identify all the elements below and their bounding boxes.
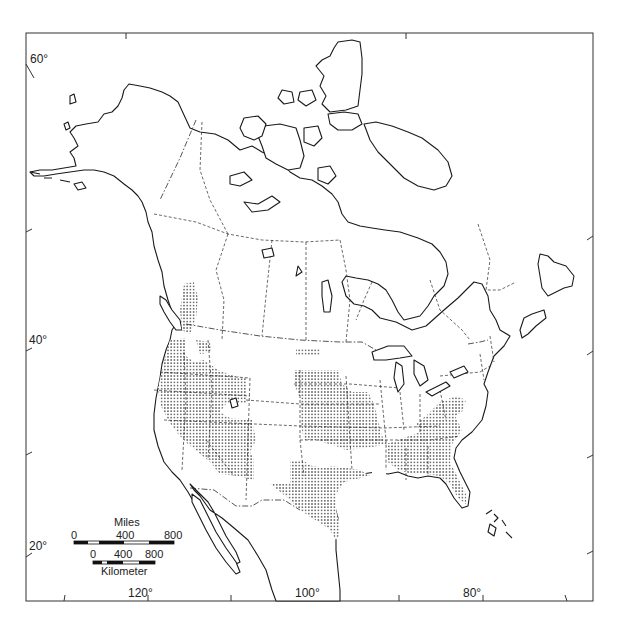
landmass <box>30 40 574 601</box>
banks-island <box>240 116 266 140</box>
scale-km-bar <box>93 561 155 564</box>
baffin-island <box>364 122 452 190</box>
map-canvas: 60° 40° 20° 120° 100° 80° Miles 0 400 80… <box>0 0 619 635</box>
kodiak-island <box>74 182 86 190</box>
scale-miles-tick-0: 0 <box>71 529 77 541</box>
range-north-dakota-patch <box>296 348 320 356</box>
lat-label-20: 20° <box>29 539 47 553</box>
scale-km-tick-400: 400 <box>114 548 132 560</box>
scale-miles-title: Miles <box>114 516 140 528</box>
longitude-labels: 120° 100° 80° <box>128 586 481 600</box>
scale-bar: Miles 0 400 800 0 400 800 Kilometer <box>71 516 182 577</box>
scale-miles-bar <box>74 541 174 544</box>
southampton-island <box>318 166 336 184</box>
st-lawrence-island <box>70 94 76 104</box>
lat-label-60: 60° <box>30 52 48 66</box>
nunivak-island <box>64 122 70 130</box>
arctic-island-c <box>278 90 294 104</box>
cuba <box>488 524 496 536</box>
scale-miles-tick-400: 400 <box>116 529 134 541</box>
arctic-island-b <box>304 126 322 146</box>
lon-label-100: 100° <box>295 586 320 600</box>
scale-km-title: Kilometer <box>101 565 148 577</box>
scale-km-tick-0: 0 <box>90 548 96 560</box>
newfoundland <box>538 254 574 296</box>
devon-island <box>328 112 362 130</box>
arctic-island-a <box>298 90 316 106</box>
latitude-labels: 60° 40° 20° <box>29 52 48 553</box>
scale-km-tick-800: 800 <box>145 548 163 560</box>
ellesmere-island <box>316 40 362 112</box>
scale-miles-tick-800: 800 <box>164 529 182 541</box>
range-map: 60° 40° 20° 120° 100° 80° Miles 0 400 80… <box>0 0 619 635</box>
great-salt-lake <box>230 398 238 408</box>
nova-scotia <box>520 310 546 338</box>
lon-label-80: 80° <box>463 586 481 600</box>
lat-label-40: 40° <box>29 333 47 347</box>
lon-label-120: 120° <box>128 586 153 600</box>
lake-athabasca <box>262 248 274 258</box>
